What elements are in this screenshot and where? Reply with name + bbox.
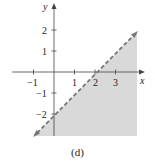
x-axis-arrow-icon: [139, 70, 145, 75]
figure-caption: (d): [0, 146, 155, 158]
inequality-graph: −1 1 2 3 2 1 −1 −2 x y: [0, 0, 155, 166]
x-tick-label: −1: [27, 77, 38, 88]
x-tick-label: 3: [113, 77, 118, 88]
y-tick-label: −1: [36, 88, 47, 99]
x-tick-label: 1: [72, 77, 77, 88]
x-axis-label: x: [139, 75, 145, 86]
y-axis-arrow-icon: [52, 3, 57, 9]
y-tick-label: −2: [36, 109, 47, 120]
y-axis-label: y: [42, 1, 48, 12]
x-tick-label: 2: [93, 77, 98, 88]
y-tick-label: 2: [42, 25, 47, 36]
y-tick-label: 1: [42, 46, 47, 57]
